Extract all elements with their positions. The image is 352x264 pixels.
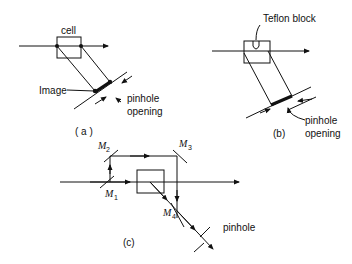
panel-b: Teflon block pinhole opening (b) — [212, 13, 341, 139]
panel-c: M 2 M 3 M 1 M 4 pinhole (c) — [60, 138, 256, 252]
ray-line — [244, 53, 271, 104]
caption-b: (b) — [273, 128, 285, 139]
m1-subscript: 1 — [114, 194, 118, 201]
panel-a: cell Image pinhole opening ( a ) — [19, 25, 163, 137]
image-point — [108, 80, 112, 84]
image-label: Image — [39, 85, 67, 96]
cavity — [253, 41, 259, 49]
opening-bar — [271, 96, 292, 105]
pinhole-jaw — [200, 227, 210, 237]
m4-subscript: 4 — [172, 213, 176, 220]
teflon-leader — [256, 25, 260, 40]
opening-arrow — [95, 97, 106, 104]
caption-a: ( a ) — [75, 126, 93, 137]
image-leader — [67, 90, 94, 91]
m1-label: M — [104, 188, 114, 199]
pinhole-pointer-arrow — [288, 108, 305, 120]
m4-label: M — [162, 207, 172, 218]
pinhole-label: pinhole — [127, 93, 160, 104]
teflon-label: Teflon block — [263, 13, 317, 24]
optical-setup-diagram: cell Image pinhole opening ( a ) Teflon … — [0, 0, 352, 264]
cell-label: cell — [61, 25, 76, 36]
beam-arrow — [177, 211, 195, 230]
m3-subscript: 3 — [188, 144, 192, 151]
opening-label: opening — [305, 128, 341, 139]
m2-subscript: 2 — [106, 146, 110, 153]
caption-c: (c) — [123, 237, 135, 248]
ray-line — [268, 51, 292, 96]
cell-box — [57, 37, 81, 58]
opening-arrow — [122, 76, 132, 83]
pinhole-pointer-arrow — [116, 98, 121, 102]
opening-label: opening — [127, 106, 163, 117]
pinhole-label: pinhole — [223, 222, 256, 233]
ray-line — [81, 46, 110, 82]
pinhole-label: pinhole — [305, 115, 338, 126]
image-bar — [95, 82, 110, 92]
m3-label: M — [178, 138, 188, 149]
pinhole-jaw — [194, 243, 204, 252]
